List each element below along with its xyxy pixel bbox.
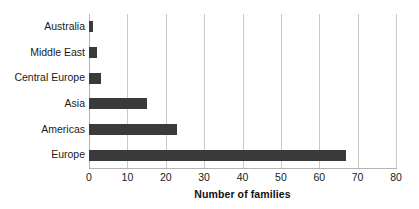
x-tick-20: 20 <box>160 171 172 183</box>
bar-americas <box>89 124 177 135</box>
bar-australia <box>89 21 93 32</box>
bar-central-europe <box>89 73 101 84</box>
x-tick-50: 50 <box>275 171 287 183</box>
y-axis-label-asia: Asia <box>65 91 85 117</box>
bar-series <box>89 14 396 168</box>
x-tick-60: 60 <box>313 171 325 183</box>
y-axis-label-central-europe: Central Europe <box>14 65 85 91</box>
bar-chart: Australia Middle East Central Europe Asi… <box>0 0 419 209</box>
x-tick-0: 0 <box>86 171 92 183</box>
y-axis-label-australia: Australia <box>44 14 85 40</box>
x-tick-10: 10 <box>122 171 134 183</box>
x-axis-title: Number of families <box>89 188 396 200</box>
x-tick-40: 40 <box>237 171 249 183</box>
y-axis-label-europe: Europe <box>51 142 85 168</box>
bar-row <box>89 117 177 143</box>
y-axis-category-labels: Australia Middle East Central Europe Asi… <box>0 14 85 168</box>
bar-row <box>89 142 346 168</box>
x-axis-tick-labels: 0 10 20 30 40 50 60 70 80 <box>0 171 419 187</box>
bar-middle-east <box>89 47 97 58</box>
x-tick-30: 30 <box>198 171 210 183</box>
gridline-80 <box>396 14 397 168</box>
x-axis-line <box>89 168 397 169</box>
bar-row <box>89 91 147 117</box>
plot-area <box>89 14 396 168</box>
x-tick-80: 80 <box>390 171 402 183</box>
bar-row <box>89 65 101 91</box>
bar-asia <box>89 98 147 109</box>
bar-row <box>89 40 97 66</box>
x-tick-70: 70 <box>352 171 364 183</box>
bar-europe <box>89 150 346 161</box>
y-axis-label-americas: Americas <box>41 117 85 143</box>
bar-row <box>89 14 93 40</box>
y-axis-label-middle-east: Middle East <box>30 40 85 66</box>
